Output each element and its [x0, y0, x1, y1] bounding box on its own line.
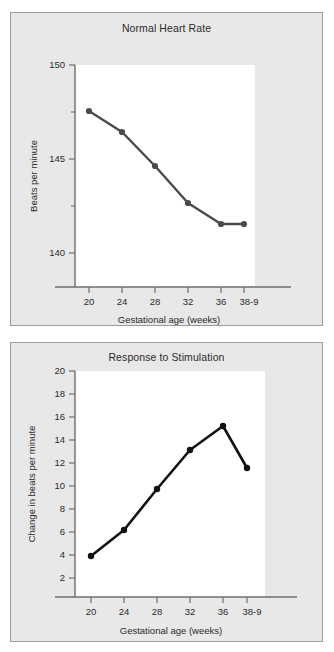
x-tick-label-32: 32 [183, 296, 194, 307]
chart-panel-normal-heart-rate: Normal Heart Rate 150 145 140 Beats per … [10, 12, 323, 326]
x-tick-label-28: 28 [150, 296, 161, 307]
data-point-36 [220, 423, 226, 429]
y-tick-label-145: 145 [49, 153, 65, 164]
y-axis-title-normal-heart-rate: Beats per minute [28, 140, 39, 212]
data-point-28 [152, 163, 158, 169]
figure-page: Normal Heart Rate 150 145 140 Beats per … [0, 0, 334, 652]
y-tick-label-12: 12 [54, 457, 65, 468]
x-tick-label-38-9: 38-9 [242, 606, 261, 617]
x-tick-label-32: 32 [185, 606, 196, 617]
x-tick-label-36: 36 [216, 296, 227, 307]
y-tick-label-140: 140 [49, 247, 65, 258]
x-tick-label-24: 24 [117, 296, 128, 307]
y-tick-label-20: 20 [54, 365, 65, 376]
chart-panel-response-to-stimulation: Response to Stimulation 20 18 16 14 [10, 342, 323, 642]
data-point-32 [185, 200, 191, 206]
x-tick-label-38-9: 38-9 [239, 296, 258, 307]
y-tick-label-2: 2 [60, 572, 65, 583]
y-tick-label-150: 150 [49, 59, 65, 70]
data-point-20 [86, 108, 92, 114]
y-tick-label-18: 18 [54, 388, 65, 399]
plot-area-response-to-stimulation [75, 371, 265, 597]
x-tick-label-36: 36 [218, 606, 229, 617]
data-point-32 [187, 447, 193, 453]
y-tick-label-14: 14 [54, 434, 65, 445]
x-tick-label-20: 20 [86, 606, 97, 617]
data-point-28 [154, 486, 160, 492]
x-tick-label-28: 28 [152, 606, 163, 617]
x-tick-label-24: 24 [119, 606, 130, 617]
data-point-38-9 [244, 465, 250, 471]
chart-svg-normal-heart-rate: 150 145 140 Beats per minute 20 24 28 32… [11, 13, 322, 325]
y-tick-label-8: 8 [60, 503, 65, 514]
data-point-24 [119, 129, 125, 135]
x-axis-title-normal-heart-rate: Gestational age (weeks) [118, 314, 220, 325]
data-point-36 [218, 221, 224, 227]
y-axis-title-response-to-stimulation: Change in beats per minute [26, 426, 37, 543]
data-point-20 [88, 553, 94, 559]
y-tick-label-10: 10 [54, 480, 65, 491]
data-point-24 [121, 527, 127, 533]
y-tick-label-4: 4 [60, 549, 65, 560]
data-point-38-9 [241, 221, 247, 227]
y-tick-label-6: 6 [60, 526, 65, 537]
x-tick-label-20: 20 [84, 296, 95, 307]
chart-svg-response-to-stimulation: 20 18 16 14 12 10 8 6 4 2 Change in beat… [11, 343, 322, 641]
x-axis-title-response-to-stimulation: Gestational age (weeks) [120, 625, 222, 636]
y-tick-label-16: 16 [54, 411, 65, 422]
